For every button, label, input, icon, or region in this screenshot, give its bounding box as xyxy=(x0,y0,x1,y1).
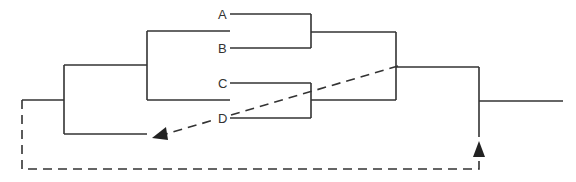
leaf-label-d: D xyxy=(218,111,227,126)
feedback-arrowhead-icon xyxy=(473,141,485,157)
tree-diagram: A B C D xyxy=(0,0,576,182)
transfer-arrowhead-icon xyxy=(152,127,168,140)
leaf-label-a: A xyxy=(218,7,227,22)
leaf-label-c: C xyxy=(218,76,227,91)
leaf-label-b: B xyxy=(218,41,227,56)
